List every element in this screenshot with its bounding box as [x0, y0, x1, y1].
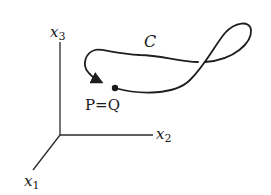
x3-axis-label: x3	[50, 23, 65, 43]
x2-axis-label: x2	[156, 125, 171, 145]
curve-diagram: x3 x2 x1 C P=Q	[0, 0, 271, 195]
point-p-dot	[112, 85, 118, 91]
curve-label: C	[144, 32, 156, 51]
x1-axis	[33, 135, 60, 170]
curve-c	[85, 24, 251, 93]
x1-axis-label: x1	[24, 172, 39, 192]
curve-c-path	[85, 24, 251, 93]
point-label: P=Q	[85, 96, 120, 114]
diagram-canvas: x3 x2 x1 C P=Q	[0, 0, 271, 195]
